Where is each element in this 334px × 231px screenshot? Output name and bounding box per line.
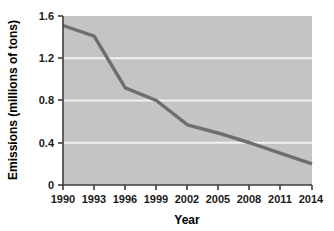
line-chart: 1.6 1.2 0.8 0.4 0 1990 1993 1996 1999 20…: [0, 0, 334, 231]
y-tick-label-0-8: 0.8: [39, 94, 54, 106]
y-tick-label-1-6: 1.6: [39, 10, 54, 22]
y-axis-title: Emissions (millions of tons): [6, 20, 20, 180]
x-tick-label-1996: 1996: [113, 193, 137, 205]
x-tick-label-1990: 1990: [51, 193, 75, 205]
y-tick-label-0-4: 0.4: [39, 137, 55, 149]
x-tick-label-1999: 1999: [144, 193, 168, 205]
x-axis-title: Year: [174, 213, 200, 227]
x-tick-label-1993: 1993: [82, 193, 106, 205]
x-tick-label-2008: 2008: [237, 193, 261, 205]
y-tick-label-0: 0: [48, 179, 54, 191]
x-tick-label-2014: 2014: [299, 193, 324, 205]
x-tick-label-2002: 2002: [175, 193, 199, 205]
x-tick-label-2005: 2005: [206, 193, 230, 205]
y-tick-label-1-2: 1.2: [39, 52, 54, 64]
chart-figure: 1.6 1.2 0.8 0.4 0 1990 1993 1996 1999 20…: [0, 0, 334, 231]
x-axis-tick-labels: 1990 1993 1996 1999 2002 2005 2008 2011 …: [51, 193, 324, 205]
x-tick-label-2011: 2011: [268, 193, 292, 205]
